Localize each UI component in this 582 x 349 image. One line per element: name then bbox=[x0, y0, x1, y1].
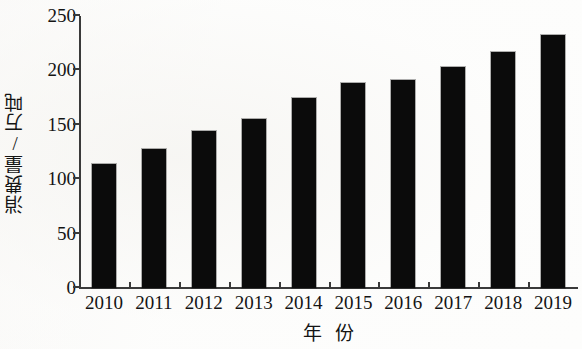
y-axis-line bbox=[79, 16, 81, 289]
bar bbox=[292, 98, 316, 288]
x-tick-mark bbox=[279, 282, 281, 289]
x-tick-mark bbox=[229, 282, 231, 289]
y-tick-mark bbox=[73, 177, 80, 179]
plot-area bbox=[79, 16, 578, 288]
y-tick-label: 200 bbox=[32, 60, 76, 79]
y-tick-mark bbox=[73, 68, 80, 70]
x-tick-label: 2016 bbox=[375, 292, 431, 315]
bar bbox=[142, 149, 166, 288]
x-tick-label: 2019 bbox=[525, 292, 581, 315]
bar bbox=[242, 119, 266, 288]
x-tick-mark bbox=[428, 282, 430, 289]
x-tick-label: 2012 bbox=[176, 292, 232, 315]
bar bbox=[92, 164, 116, 288]
x-tick-label: 2015 bbox=[325, 292, 381, 315]
x-axis-tick-labels: 2010201120122013201420152016201720182019 bbox=[79, 292, 578, 318]
x-tick-label: 2010 bbox=[76, 292, 132, 315]
bar-chart: 消费量/万吨 050100150200250 20102011201220132… bbox=[0, 0, 582, 349]
x-axis-title-part1: 年 bbox=[303, 323, 323, 344]
bar bbox=[491, 52, 515, 288]
y-tick-mark bbox=[73, 14, 80, 16]
x-tick-mark bbox=[129, 282, 131, 289]
bar bbox=[391, 80, 415, 288]
x-axis-title-part2: 份 bbox=[335, 323, 355, 344]
y-axis-tick-labels: 050100150200250 bbox=[26, 0, 76, 349]
x-tick-mark bbox=[478, 282, 480, 289]
bar bbox=[192, 131, 216, 288]
y-tick-label: 250 bbox=[32, 6, 76, 25]
y-tick-label: 100 bbox=[32, 169, 76, 188]
y-tick-label: 0 bbox=[32, 278, 76, 297]
x-tick-label: 2014 bbox=[276, 292, 332, 315]
x-tick-label: 2017 bbox=[425, 292, 481, 315]
y-tick-label: 50 bbox=[32, 224, 76, 243]
x-tick-mark bbox=[378, 282, 380, 289]
y-tick-mark bbox=[73, 232, 80, 234]
y-tick-mark bbox=[73, 123, 80, 125]
y-axis-title: 消费量/万吨 bbox=[2, 68, 28, 238]
bar bbox=[341, 83, 365, 288]
x-axis-title: 年份 bbox=[79, 318, 578, 345]
x-tick-label: 2018 bbox=[475, 292, 531, 315]
bar bbox=[541, 35, 565, 289]
bar bbox=[441, 67, 465, 288]
y-tick-label: 150 bbox=[32, 115, 76, 134]
y-tick-mark bbox=[73, 286, 80, 288]
x-tick-label: 2011 bbox=[126, 292, 182, 315]
x-tick-mark bbox=[329, 282, 331, 289]
x-tick-label: 2013 bbox=[226, 292, 282, 315]
x-tick-mark bbox=[179, 282, 181, 289]
x-tick-mark bbox=[528, 282, 530, 289]
